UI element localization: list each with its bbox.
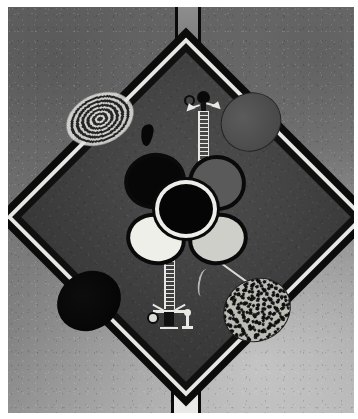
totem-lower (146, 257, 202, 341)
totem-hand-left-icon (184, 102, 196, 112)
artwork-frame: Abstract composition with central diamon… (0, 0, 358, 419)
totem-finial-base (182, 326, 193, 329)
totem-lower-rail-right (174, 257, 176, 309)
totem-hand-right-icon (211, 100, 223, 110)
totem-lower-foot-bar (160, 327, 178, 329)
print-plate (8, 7, 354, 413)
totem-lower-rail-left (164, 257, 166, 309)
totem-lower-disc-icon (147, 312, 159, 324)
totem-lower-trunk (164, 312, 174, 326)
flower-core-disc (155, 180, 217, 238)
